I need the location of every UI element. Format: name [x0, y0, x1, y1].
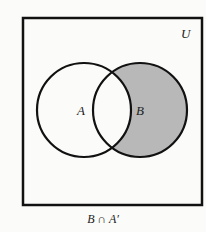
set-b-label: B: [136, 103, 144, 119]
set-a-label: A: [77, 103, 85, 119]
shaded-region: [0, 0, 206, 232]
caption: B ∩ A′: [0, 212, 206, 227]
venn-diagram: [0, 0, 206, 232]
universe-label: U: [181, 26, 190, 42]
